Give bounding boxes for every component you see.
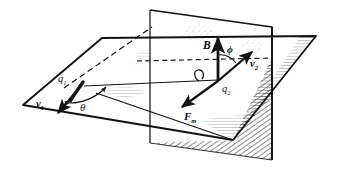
physics-diagram-figure: q1 v1 θ B ϕ v2 q2 Fm <box>0 0 346 170</box>
label-theta: θ <box>80 101 86 113</box>
label-phi: ϕ <box>227 44 233 55</box>
diagram-canvas: q1 v1 θ B ϕ v2 q2 Fm <box>0 0 346 170</box>
label-B: B <box>202 39 211 51</box>
